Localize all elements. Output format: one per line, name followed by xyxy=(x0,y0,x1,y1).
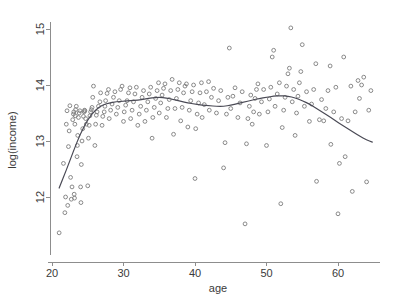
data-point xyxy=(198,91,202,95)
data-point xyxy=(190,90,194,94)
data-point xyxy=(70,185,74,189)
data-point xyxy=(312,88,316,92)
data-point xyxy=(147,92,151,96)
data-point xyxy=(101,114,105,118)
x-tick-label: 60 xyxy=(332,267,344,279)
data-point xyxy=(182,91,186,95)
data-point xyxy=(286,72,290,76)
data-point xyxy=(293,134,297,138)
data-point xyxy=(318,118,322,122)
data-point xyxy=(356,79,360,83)
data-point xyxy=(334,85,338,89)
data-point xyxy=(246,117,250,121)
data-point xyxy=(91,95,95,99)
data-point xyxy=(299,70,303,74)
data-point xyxy=(247,104,251,108)
data-point xyxy=(322,119,326,123)
data-point xyxy=(112,95,116,99)
data-point xyxy=(102,110,106,114)
data-point xyxy=(187,108,191,112)
data-point xyxy=(160,93,164,97)
data-point xyxy=(87,136,91,140)
data-point xyxy=(200,116,204,120)
data-point xyxy=(62,162,66,166)
data-point xyxy=(186,125,190,129)
data-point xyxy=(180,106,184,110)
data-point xyxy=(369,89,373,93)
data-point xyxy=(155,89,159,93)
plot-canvas: 2030405060 12131415 age log(income) xyxy=(0,0,410,302)
data-point xyxy=(233,86,237,90)
data-point xyxy=(273,104,277,108)
data-point xyxy=(157,111,161,115)
data-point xyxy=(165,116,169,120)
data-point xyxy=(162,86,166,90)
data-point xyxy=(189,99,193,103)
data-point xyxy=(305,90,309,94)
y-tick-label: 13 xyxy=(34,135,46,147)
data-point xyxy=(130,108,134,112)
data-point xyxy=(362,75,366,79)
data-point xyxy=(227,46,231,50)
data-point xyxy=(326,89,330,93)
data-point xyxy=(226,95,230,99)
data-point xyxy=(68,104,72,108)
data-point xyxy=(205,90,209,94)
data-point xyxy=(152,106,156,110)
data-point xyxy=(332,110,336,114)
data-point xyxy=(143,120,147,124)
data-point xyxy=(290,100,294,104)
data-points-layer xyxy=(57,26,373,235)
data-point xyxy=(346,119,350,123)
data-point xyxy=(231,94,235,98)
data-point xyxy=(86,184,90,188)
data-point xyxy=(289,26,293,30)
data-point xyxy=(136,123,140,127)
data-point xyxy=(149,85,153,89)
data-point xyxy=(172,132,176,136)
data-point xyxy=(279,202,283,206)
data-point xyxy=(113,90,117,94)
data-point xyxy=(67,145,71,149)
data-point xyxy=(194,127,198,131)
data-point xyxy=(176,88,180,92)
data-point xyxy=(73,122,77,126)
data-point xyxy=(314,62,318,66)
data-point xyxy=(159,101,163,105)
data-point xyxy=(80,139,84,143)
data-point xyxy=(320,98,324,102)
data-point xyxy=(57,231,61,235)
data-point xyxy=(240,90,244,94)
data-point xyxy=(67,129,71,133)
x-axis: 2030405060 xyxy=(46,262,380,279)
data-point xyxy=(342,55,346,59)
data-point xyxy=(285,84,289,88)
data-point xyxy=(302,104,306,108)
data-point xyxy=(93,144,97,148)
data-point xyxy=(170,78,174,82)
data-point xyxy=(338,162,342,166)
data-point xyxy=(225,112,229,116)
data-point xyxy=(280,126,284,130)
data-point xyxy=(142,89,146,93)
data-point xyxy=(150,136,154,140)
data-point xyxy=(212,86,216,90)
data-point xyxy=(365,180,369,184)
data-point xyxy=(207,80,211,84)
data-point xyxy=(324,107,328,111)
data-point xyxy=(157,81,161,85)
data-point xyxy=(262,88,266,92)
data-point xyxy=(177,81,181,85)
data-point xyxy=(75,155,79,159)
data-point xyxy=(77,116,81,120)
data-point xyxy=(243,222,247,226)
data-point xyxy=(329,142,333,146)
data-point xyxy=(129,117,133,121)
data-point xyxy=(105,92,109,96)
data-point xyxy=(360,83,364,87)
data-point xyxy=(104,99,108,103)
data-point xyxy=(269,85,273,89)
data-point xyxy=(350,190,354,194)
data-point xyxy=(128,86,132,90)
data-point xyxy=(222,166,226,170)
